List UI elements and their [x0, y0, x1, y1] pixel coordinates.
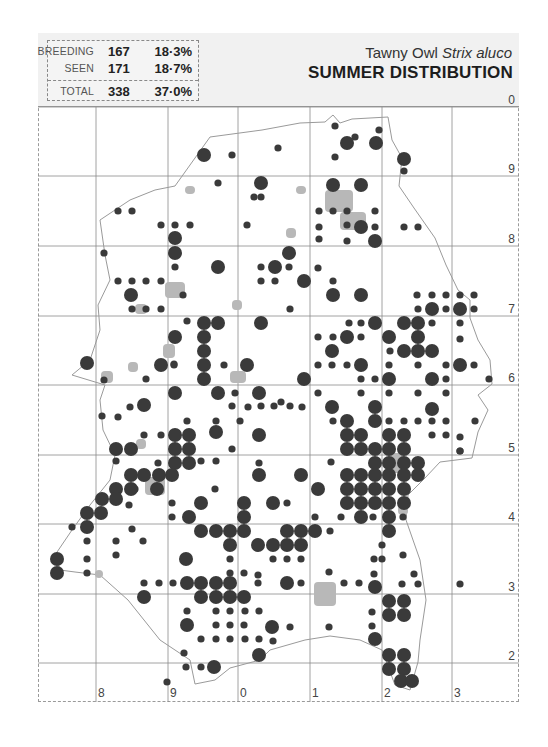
breeding-dot — [223, 538, 237, 552]
breeding-dot — [197, 358, 211, 372]
seen-dot — [128, 207, 135, 214]
breeding-dot — [182, 442, 196, 456]
seen-dot — [240, 569, 247, 576]
seen-dot — [114, 413, 121, 420]
seen-dot — [226, 555, 233, 562]
seen-dot — [155, 579, 162, 586]
seen-dot — [456, 319, 463, 326]
seen-dot — [270, 402, 277, 409]
breeding-dot — [94, 506, 108, 520]
seen-dot — [343, 361, 350, 368]
seen-dot — [212, 607, 219, 614]
breeding-dot — [325, 344, 339, 358]
seen-dot — [183, 317, 190, 324]
breeding-dot — [308, 524, 322, 538]
breeding-dot — [197, 344, 211, 358]
seen-dot — [241, 607, 248, 614]
seen-dot — [428, 291, 435, 298]
breeding-dot — [453, 358, 467, 372]
breeding-dot — [340, 414, 354, 428]
breeding-dot — [368, 400, 382, 414]
seen-dot — [157, 305, 164, 312]
seen-dot — [428, 417, 435, 424]
seen-dot — [355, 579, 362, 586]
seen-dot — [414, 361, 421, 368]
seen-dot — [456, 291, 463, 298]
seen-dot — [183, 417, 190, 424]
seen-dot — [456, 447, 463, 454]
grid-label-column: 9 — [170, 686, 177, 700]
breeding-dot — [180, 576, 194, 590]
breeding-dot — [326, 288, 340, 302]
seen-dot — [168, 513, 175, 520]
breeding-dot — [340, 496, 354, 510]
breeding-dot — [340, 468, 354, 482]
seen-dot — [370, 570, 377, 577]
breeding-dot — [237, 590, 251, 604]
seen-dot — [83, 555, 90, 562]
breeding-dot — [168, 246, 182, 260]
seen-dot — [142, 375, 149, 382]
breeding-dot — [411, 316, 425, 330]
breeding-dot — [137, 590, 151, 604]
breeding-dot — [280, 576, 294, 590]
breeding-dot — [165, 468, 179, 482]
seen-dot — [183, 607, 190, 614]
breeding-dot — [326, 178, 340, 192]
seen-dot — [398, 580, 405, 587]
seen-dot — [357, 375, 364, 382]
breeding-dot — [180, 618, 194, 632]
breeding-dot — [382, 428, 396, 442]
seen-dot — [410, 570, 417, 577]
seen-dot — [228, 151, 235, 158]
breeding-dot — [382, 608, 396, 622]
seen-dot — [357, 389, 364, 396]
seen-dot — [271, 277, 278, 284]
breeding-dot — [124, 468, 138, 482]
breeding-dot — [168, 386, 182, 400]
seen-dot — [283, 499, 290, 506]
grid-label-column: 2 — [384, 686, 391, 700]
seen-dot — [128, 525, 135, 532]
seen-dot — [385, 417, 392, 424]
breeding-dot — [411, 468, 425, 482]
grid-label-row: 6 — [508, 371, 515, 385]
breeding-dot — [50, 566, 64, 580]
seen-dot — [186, 221, 193, 228]
seen-dot — [154, 459, 161, 466]
seen-dot — [171, 263, 178, 270]
breeding-dot — [252, 428, 266, 442]
seen-dot — [112, 537, 119, 544]
seen-dot — [142, 305, 149, 312]
grid-label-row: 7 — [508, 302, 515, 316]
seen-dot — [254, 571, 261, 578]
breeding-dot — [209, 590, 223, 604]
seen-dot — [125, 501, 132, 508]
breeding-dot — [382, 648, 396, 662]
breeding-dot — [194, 496, 208, 510]
breeding-dot — [405, 674, 419, 688]
breeding-dot — [197, 148, 211, 162]
seen-dot — [369, 513, 376, 520]
seen-dot — [171, 221, 178, 228]
seen-dot — [314, 264, 321, 271]
breeding-dot — [251, 538, 265, 552]
seen-dot — [277, 398, 284, 405]
breeding-dot — [382, 468, 396, 482]
seen-dot — [414, 305, 421, 312]
urban-patch — [95, 570, 103, 578]
seen-dot — [456, 580, 463, 587]
seen-dot — [128, 277, 135, 284]
breeding-dot — [397, 316, 411, 330]
seen-dot — [250, 193, 257, 200]
breeding-dot — [179, 552, 193, 566]
seen-dot — [371, 375, 378, 382]
breeding-dot — [368, 482, 382, 496]
breeding-dot — [223, 576, 237, 590]
seen-dot — [337, 513, 344, 520]
grid-label-row: 4 — [508, 510, 515, 524]
breeding-dot — [294, 538, 308, 552]
breeding-dot — [237, 510, 251, 524]
breeding-dot — [252, 468, 266, 482]
seen-dot — [211, 485, 218, 492]
